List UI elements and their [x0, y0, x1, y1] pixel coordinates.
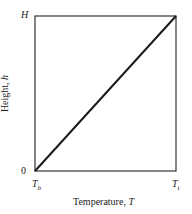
chart-canvas: [0, 0, 192, 214]
y-tick-h: H: [21, 9, 28, 20]
x-axis-label: Temperature, T: [73, 196, 134, 207]
x-tick-tb: Tb: [32, 178, 41, 192]
y-tick-0: 0: [21, 165, 26, 176]
y-axis-label: Height, h: [0, 75, 10, 112]
x-tick-tt: Tt: [172, 178, 180, 192]
data-line: [35, 16, 176, 171]
